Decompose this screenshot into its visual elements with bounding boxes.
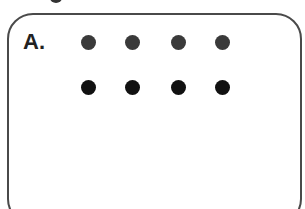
dot xyxy=(215,80,230,95)
dot xyxy=(81,35,96,50)
cropped-top-glyph xyxy=(50,0,62,3)
panel-a: A. xyxy=(7,13,302,209)
dot xyxy=(215,35,230,50)
panel-label: A. xyxy=(23,29,45,55)
dot xyxy=(125,35,140,50)
dot xyxy=(171,35,186,50)
dot xyxy=(125,80,140,95)
dot xyxy=(81,80,96,95)
dot xyxy=(171,80,186,95)
